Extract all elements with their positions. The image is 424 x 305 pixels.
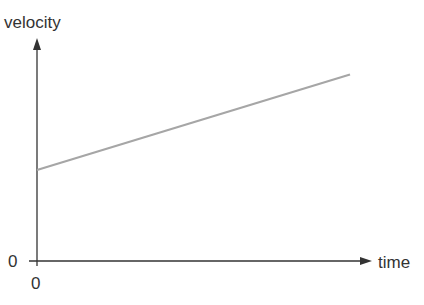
y-axis-arrow-icon [33,38,41,50]
chart-canvas [0,0,424,305]
x-axis-arrow-icon [360,257,372,265]
velocity-line [37,75,350,170]
